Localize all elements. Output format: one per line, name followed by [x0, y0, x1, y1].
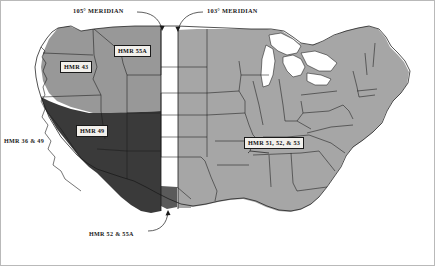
- meridian-white-band: [161, 31, 178, 211]
- meridian-103-label: 103° MERIDIAN: [207, 8, 258, 14]
- region-label-hmr-43: HMR 43: [60, 61, 92, 73]
- map-figure: 105° MERIDIAN 103° MERIDIAN HMR 55A HMR …: [0, 0, 435, 266]
- region-label-hmr-55a: HMR 55A: [114, 45, 151, 57]
- usa-region-map: [1, 1, 435, 266]
- region-label-hmr-49: HMR 49: [76, 125, 108, 137]
- region-label-hmr-52-and-55a: HMR 52 & 55A: [89, 231, 134, 237]
- meridian-105-label: 105° MERIDIAN: [73, 8, 124, 14]
- region-label-hmr-36-and-49: HMR 36 & 49: [4, 138, 44, 144]
- region-label-hmr-51-52-53: HMR 51, 52, & 53: [244, 137, 304, 149]
- leader-52-55a: [148, 212, 168, 231]
- region-southwest-dark-gray: [41, 97, 177, 213]
